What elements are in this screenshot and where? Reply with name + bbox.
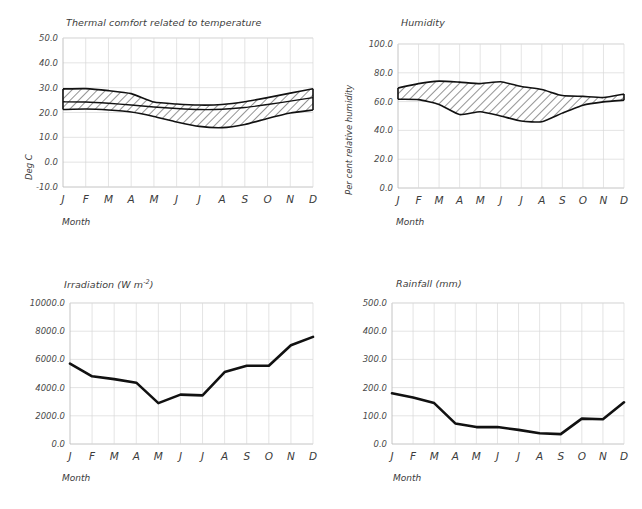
x-tick-label-month: M <box>110 450 119 462</box>
x-tick-label-month: M <box>430 450 439 462</box>
x-tick-label-month: J <box>390 450 393 462</box>
panel-humidity: Humidity Per cent relative humidity Mont… <box>330 0 642 258</box>
y-tick-label: 300.0 <box>330 354 387 364</box>
y-tick-label: 100.0 <box>330 39 393 49</box>
x-tick-label-month: J <box>520 194 523 206</box>
x-tick-label-month: S <box>241 193 248 205</box>
x-tick-label-month: M <box>476 194 485 206</box>
x-tick-label-month: M <box>149 193 158 205</box>
x-tick-label-month: D <box>309 450 317 462</box>
chart-title-thermal-comfort: Thermal comfort related to temperature <box>66 17 262 28</box>
y-tick-label: 50.0 <box>0 33 58 43</box>
y-tick-label: 2000.0 <box>0 411 65 421</box>
y-tick-label: 500.0 <box>330 298 387 308</box>
plot-irradiation <box>70 337 313 403</box>
x-axis-label-thermal-comfort: Month <box>62 217 90 227</box>
x-tick-label-month: F <box>416 194 422 206</box>
x-tick-label-month: J <box>201 450 204 462</box>
x-tick-label-month: J <box>61 193 64 205</box>
x-tick-label-month: O <box>265 450 273 462</box>
x-axis-label-irradiation: Month <box>62 473 90 483</box>
y-tick-label: 10.0 <box>0 132 58 142</box>
x-tick-label-month: F <box>89 450 95 462</box>
x-tick-label-month: S <box>559 194 566 206</box>
x-tick-label-month: M <box>154 450 163 462</box>
y-tick-label: 30.0 <box>0 83 58 93</box>
x-tick-label-month: A <box>218 193 225 205</box>
y-tick-label: 40.0 <box>330 125 393 135</box>
x-tick-label-month: M <box>104 193 113 205</box>
x-tick-label-month: J <box>517 450 520 462</box>
page-footer-ghost-text <box>0 499 642 509</box>
x-tick-label-month: J <box>68 450 71 462</box>
x-tick-label-month: J <box>179 450 182 462</box>
x-tick-label-month: A <box>536 450 543 462</box>
x-tick-label-month: N <box>599 450 607 462</box>
y-tick-label: 4000.0 <box>0 383 65 393</box>
chart-title-irradiation-tail: ) <box>150 279 154 290</box>
x-tick-label-month: F <box>83 193 89 205</box>
x-tick-label-month: A <box>538 194 545 206</box>
x-tick-label-month: A <box>456 194 463 206</box>
x-tick-label-month: D <box>309 193 317 205</box>
y-tick-label: 10000.0 <box>0 298 65 308</box>
y-tick-label: 0.0 <box>0 439 65 449</box>
y-tick-label: 0.0 <box>330 183 393 193</box>
x-tick-label-month: J <box>198 193 201 205</box>
x-tick-label-month: N <box>286 193 294 205</box>
x-tick-label-month: J <box>496 450 499 462</box>
x-tick-label-month: D <box>620 194 628 206</box>
x-tick-label-month: S <box>557 450 564 462</box>
y-tick-label: 80.0 <box>330 68 393 78</box>
x-axis-label-humidity: Month <box>396 217 424 227</box>
climate-charts-figure: Thermal comfort related to temperature D… <box>0 0 642 509</box>
panel-irradiation: Irradiation (W m-2) Month 10000.08000.06… <box>0 258 330 509</box>
gridlines-irradiation <box>70 303 313 444</box>
y-tick-label: 20.0 <box>0 108 58 118</box>
x-tick-label-month: D <box>620 450 628 462</box>
chart-title-irradiation: Irradiation (W m-2) <box>64 278 154 290</box>
x-tick-label-month: O <box>579 194 587 206</box>
x-tick-label-month: M <box>472 450 481 462</box>
plot-thermal <box>63 89 313 128</box>
y-tick-label: 100.0 <box>330 411 387 421</box>
plot-rainfall <box>392 393 624 434</box>
x-tick-label-month: J <box>175 193 178 205</box>
x-tick-label-month: M <box>435 194 444 206</box>
x-tick-label-month: O <box>263 193 271 205</box>
chart-title-irradiation-base: Irradiation (W m <box>64 279 143 290</box>
plot-humidity <box>398 81 624 122</box>
x-axis-label-rainfall: Month <box>393 473 421 483</box>
y-tick-label: 0.0 <box>330 439 387 449</box>
chart-title-rainfall: Rainfall (mm) <box>396 278 462 289</box>
y-tick-label: 60.0 <box>330 97 393 107</box>
gridlines-rainfall <box>392 303 624 444</box>
x-tick-label-month: A <box>221 450 228 462</box>
x-tick-label-month: N <box>600 194 608 206</box>
x-tick-label-month: A <box>452 450 459 462</box>
y-tick-label: 8000.0 <box>0 326 65 336</box>
x-tick-label-month: O <box>578 450 586 462</box>
x-tick-label-month: A <box>133 450 140 462</box>
y-tick-label: 20.0 <box>330 154 393 164</box>
y-tick-label: 400.0 <box>330 326 387 336</box>
y-tick-label: 6000.0 <box>0 354 65 364</box>
y-tick-label: 200.0 <box>330 383 387 393</box>
chart-title-irradiation-exponent: -2 <box>143 278 150 286</box>
y-tick-label: -10.0 <box>0 182 58 192</box>
chart-title-humidity: Humidity <box>401 17 445 28</box>
x-tick-label-month: S <box>243 450 250 462</box>
y-tick-label: 40.0 <box>0 58 58 68</box>
panel-thermal-comfort: Thermal comfort related to temperature D… <box>0 0 330 258</box>
x-tick-label-month: N <box>287 450 295 462</box>
x-tick-label-month: F <box>410 450 416 462</box>
x-tick-label-month: A <box>128 193 135 205</box>
x-tick-label-month: J <box>396 194 399 206</box>
x-tick-label-month: J <box>499 194 502 206</box>
panel-rainfall: Rainfall (mm) Month 500.0400.0300.0200.0… <box>330 258 642 509</box>
y-tick-label: 0.0 <box>0 157 58 167</box>
